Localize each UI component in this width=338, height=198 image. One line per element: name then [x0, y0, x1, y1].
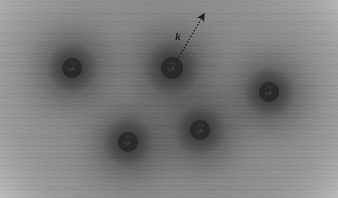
figure-container: k	[0, 0, 338, 198]
density-map-canvas	[0, 0, 338, 198]
